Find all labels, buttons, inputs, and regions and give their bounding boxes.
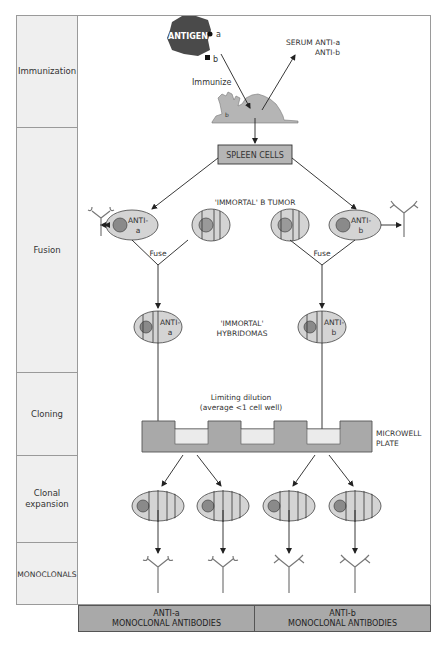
mouse-marker: b	[225, 111, 229, 118]
fuse-label-right: Fuse	[313, 249, 331, 258]
expand-arrow	[329, 455, 353, 486]
antigen-icon: ANTIGEN	[167, 16, 213, 60]
tumor-cell-right	[271, 209, 309, 241]
dilution-label-2: (average <1 cell well)	[200, 403, 283, 412]
anti-a-cell-label-2: a	[136, 226, 141, 235]
diagram-canvas: ANTIGEN a b Immunize SERUM ANTI-a ANTI-b…	[0, 0, 447, 647]
antibody-b-icon	[390, 201, 418, 237]
immunize-label: Immunize	[192, 78, 232, 87]
anti-b-cell-label-2: b	[359, 226, 364, 235]
anti-b-spleen-cell	[329, 210, 381, 240]
hybridomas-label: 'IMMORTAL'	[220, 319, 263, 328]
hybridoma-anti-b	[298, 311, 346, 343]
expand-arrow	[162, 455, 183, 486]
epitope-b-square	[205, 55, 210, 60]
expand-arrow	[293, 455, 315, 486]
tumor-cell-left	[192, 209, 230, 241]
serum-label-2: ANTI-b	[315, 48, 340, 57]
antibody-a-icon	[208, 556, 238, 593]
microwell-plate	[142, 421, 372, 452]
hybridomas-label-2: HYBRIDOMAS	[217, 329, 268, 338]
well	[175, 429, 208, 444]
fuse-label-left: Fuse	[149, 249, 167, 258]
hybridoma-b-label-2: b	[332, 328, 337, 337]
epitope-b-label: b	[213, 55, 218, 64]
spleen-cells-label: SPLEEN CELLS	[226, 151, 284, 160]
antigen-label: ANTIGEN	[168, 32, 208, 41]
serum-arrow	[262, 55, 295, 110]
well	[307, 429, 340, 444]
epitope-a-label: a	[216, 30, 221, 39]
serum-label: SERUM ANTI-a	[286, 38, 340, 47]
arrow-to-anti-a	[152, 158, 218, 209]
plate-label: MICROWELL	[376, 429, 422, 438]
hybridoma-a-label-2: a	[168, 328, 173, 337]
hybridoma-anti-a	[134, 311, 182, 343]
tumor-label: 'IMMORTAL' B TUMOR	[215, 198, 296, 207]
expand-arrow	[197, 455, 221, 486]
arrow-to-anti-b	[292, 158, 356, 209]
plate-label-2: PLATE	[376, 439, 399, 448]
hybridoma-a-label: ANTI-	[160, 318, 181, 327]
dilution-label: Limiting dilution	[211, 393, 272, 402]
antibody-b-icon	[340, 555, 370, 593]
antibody-a-icon	[143, 556, 173, 593]
epitope-a-dot	[208, 32, 213, 37]
anti-b-cell-label: ANTI-	[351, 216, 372, 225]
anti-a-cell-label: ANTI-	[128, 216, 149, 225]
antibody-b-icon	[274, 555, 304, 593]
well	[241, 429, 274, 444]
hybridoma-b-label: ANTI-	[324, 318, 345, 327]
anti-a-spleen-cell	[106, 210, 158, 240]
